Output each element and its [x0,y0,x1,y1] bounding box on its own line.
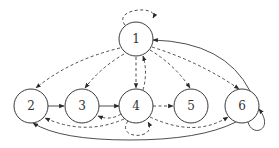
edge-1-2 [36,48,120,88]
node-2: 2 [14,89,48,123]
node-label-3: 3 [78,99,86,113]
node-label-5: 5 [187,99,195,113]
edge-4-1 [143,56,146,90]
node-6: 6 [225,89,259,123]
edge-6-1 [153,40,250,91]
node-4: 4 [119,89,153,123]
node-3: 3 [65,89,99,123]
edge-1-6 [152,47,239,89]
node-label-6: 6 [238,99,246,113]
node-1: 1 [119,22,153,56]
node-label-4: 4 [132,99,140,113]
edge-1-3 [85,54,124,88]
graph-diagram: 1 2 3 4 5 6 [0,0,279,148]
node-5: 5 [174,89,208,123]
edge-4-3 [98,114,121,118]
edge-1-5 [150,50,190,88]
node-label-2: 2 [27,99,35,113]
node-label-1: 1 [132,32,140,46]
